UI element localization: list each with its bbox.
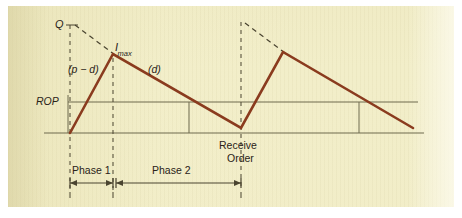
reorder-point-label: ROP bbox=[36, 96, 59, 107]
order-quantity-slope-1 bbox=[75, 25, 115, 55]
phase-2-arrow-left bbox=[116, 180, 123, 186]
diagram-screenshot: Q Imax (p − d) (d) ROP Receive Order Pha… bbox=[0, 0, 462, 218]
phase-1-arrow-left bbox=[70, 180, 77, 186]
phase-2-label: Phase 2 bbox=[152, 165, 191, 176]
receive-order-label-line1: Receive bbox=[219, 140, 257, 151]
receive-order-label-line2: Order bbox=[227, 153, 254, 164]
max-inventory-subscript: max bbox=[118, 49, 132, 58]
order-quantity-label: Q bbox=[55, 19, 64, 30]
phase-1-arrow-right bbox=[106, 180, 113, 186]
order-quantity-slope-2 bbox=[245, 23, 285, 53]
buildup-slope-label: (p − d) bbox=[68, 64, 99, 75]
phase-1-label: Phase 1 bbox=[72, 165, 111, 176]
phase-2-arrow-right bbox=[234, 180, 241, 186]
inventory-sawtooth-figure bbox=[0, 0, 462, 218]
demand-slope-label: (d) bbox=[148, 64, 161, 75]
max-inventory-label: Imax bbox=[115, 42, 132, 56]
